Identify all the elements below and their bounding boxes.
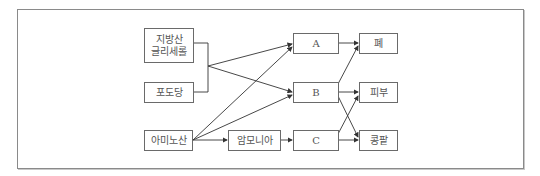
skin-box: 피부 xyxy=(359,82,398,103)
product-a-label: A xyxy=(312,38,319,50)
fatty-acid-glycerol-box: 지방산 글리세롤 xyxy=(144,28,194,63)
product-b-label: B xyxy=(312,87,319,99)
product-c-label: C xyxy=(312,135,320,147)
amino-acid-label: 아미노산 xyxy=(151,135,187,147)
fatty-acid-label: 지방산 xyxy=(156,34,183,46)
lung-box: 폐 xyxy=(359,33,398,54)
glycerol-label: 글리세롤 xyxy=(151,46,187,58)
product-c-box: C xyxy=(293,130,339,151)
product-b-box: B xyxy=(293,82,339,103)
kidney-box: 콩팥 xyxy=(359,130,398,151)
skin-label: 피부 xyxy=(370,87,388,99)
ammonia-label: 암모니아 xyxy=(237,135,273,147)
amino-acid-box: 아미노산 xyxy=(144,130,193,151)
product-a-box: A xyxy=(293,33,339,54)
kidney-label: 콩팥 xyxy=(370,135,388,147)
glucose-box: 포도당 xyxy=(144,82,194,103)
ammonia-box: 암모니아 xyxy=(228,130,281,151)
bracket-line xyxy=(193,43,208,92)
lung-label: 폐 xyxy=(374,38,383,50)
glucose-label: 포도당 xyxy=(156,87,183,99)
